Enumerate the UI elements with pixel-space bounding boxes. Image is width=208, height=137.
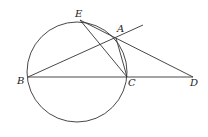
label-e: E	[74, 8, 83, 19]
label-b: B	[16, 75, 24, 86]
label-c: C	[128, 77, 136, 88]
label-d: D	[189, 77, 198, 88]
segment-ed	[80, 20, 193, 77]
segment-ac	[116, 38, 127, 77]
circle	[27, 22, 127, 122]
geometry-diagram: E A B C D	[0, 0, 208, 137]
label-a: A	[116, 23, 124, 34]
